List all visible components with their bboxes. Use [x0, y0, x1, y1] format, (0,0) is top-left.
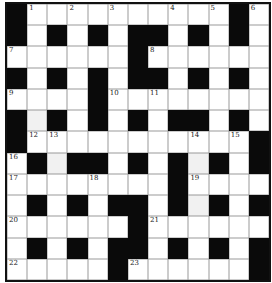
grid-cell[interactable] [249, 68, 269, 89]
grid-cell[interactable]: 14 [188, 131, 208, 152]
grid-cell[interactable] [108, 174, 128, 195]
grid-cell[interactable] [88, 4, 108, 25]
grid-cell[interactable]: 8 [148, 46, 168, 67]
grid-cell[interactable] [67, 89, 87, 110]
grid-cell[interactable]: 11 [148, 89, 168, 110]
grid-cell[interactable] [47, 216, 67, 237]
grid-cell[interactable] [27, 110, 47, 131]
grid-cell[interactable] [47, 238, 67, 259]
grid-cell[interactable] [67, 110, 87, 131]
grid-cell[interactable] [209, 259, 229, 280]
grid-cell[interactable] [88, 131, 108, 152]
grid-cell[interactable] [249, 89, 269, 110]
grid-cell[interactable] [148, 238, 168, 259]
grid-cell[interactable] [67, 25, 87, 46]
grid-cell[interactable] [108, 25, 128, 46]
grid-cell[interactable]: 21 [148, 216, 168, 237]
grid-cell[interactable] [27, 216, 47, 237]
grid-cell[interactable]: 6 [249, 4, 269, 25]
grid-cell[interactable] [27, 174, 47, 195]
grid-cell[interactable] [209, 46, 229, 67]
grid-cell[interactable]: 9 [7, 89, 27, 110]
grid-cell[interactable] [188, 216, 208, 237]
grid-cell[interactable] [168, 259, 188, 280]
grid-cell[interactable] [229, 89, 249, 110]
grid-cell[interactable] [168, 216, 188, 237]
grid-cell[interactable] [249, 216, 269, 237]
grid-cell[interactable] [67, 46, 87, 67]
grid-cell[interactable] [188, 195, 208, 216]
grid-cell[interactable] [168, 25, 188, 46]
grid-cell[interactable] [148, 4, 168, 25]
grid-cell[interactable] [27, 259, 47, 280]
grid-cell[interactable]: 22 [7, 259, 27, 280]
grid-cell[interactable] [229, 216, 249, 237]
grid-cell[interactable]: 20 [7, 216, 27, 237]
grid-cell[interactable] [229, 153, 249, 174]
grid-cell[interactable]: 16 [7, 153, 27, 174]
grid-cell[interactable] [188, 259, 208, 280]
grid-cell[interactable] [168, 68, 188, 89]
grid-cell[interactable] [209, 68, 229, 89]
grid-cell[interactable] [249, 110, 269, 131]
grid-cell[interactable] [7, 195, 27, 216]
grid-cell[interactable] [148, 110, 168, 131]
grid-cell[interactable] [229, 46, 249, 67]
grid-cell[interactable] [108, 153, 128, 174]
grid-cell[interactable] [229, 174, 249, 195]
grid-cell[interactable] [108, 131, 128, 152]
grid-cell[interactable] [249, 25, 269, 46]
grid-cell[interactable]: 4 [168, 4, 188, 25]
grid-cell[interactable]: 10 [108, 89, 128, 110]
grid-cell[interactable] [168, 89, 188, 110]
grid-cell[interactable] [47, 153, 67, 174]
grid-cell[interactable] [47, 259, 67, 280]
grid-cell[interactable] [88, 238, 108, 259]
grid-cell[interactable] [47, 195, 67, 216]
grid-cell[interactable] [148, 195, 168, 216]
grid-cell[interactable] [188, 4, 208, 25]
grid-cell[interactable] [209, 25, 229, 46]
grid-cell[interactable] [108, 68, 128, 89]
grid-cell[interactable] [88, 216, 108, 237]
grid-cell[interactable] [209, 89, 229, 110]
grid-cell[interactable]: 3 [108, 4, 128, 25]
grid-cell[interactable] [128, 174, 148, 195]
grid-cell[interactable] [168, 46, 188, 67]
grid-cell[interactable] [108, 110, 128, 131]
grid-cell[interactable]: 2 [67, 4, 87, 25]
grid-cell[interactable] [148, 259, 168, 280]
grid-cell[interactable]: 7 [7, 46, 27, 67]
grid-cell[interactable] [128, 89, 148, 110]
grid-cell[interactable] [128, 4, 148, 25]
grid-cell[interactable] [108, 46, 128, 67]
grid-cell[interactable] [209, 174, 229, 195]
grid-cell[interactable] [47, 174, 67, 195]
grid-cell[interactable] [148, 153, 168, 174]
grid-cell[interactable] [188, 238, 208, 259]
grid-cell[interactable] [27, 68, 47, 89]
grid-cell[interactable] [229, 238, 249, 259]
grid-cell[interactable]: 19 [188, 174, 208, 195]
grid-cell[interactable] [188, 89, 208, 110]
grid-cell[interactable] [47, 89, 67, 110]
grid-cell[interactable] [67, 259, 87, 280]
grid-cell[interactable] [67, 174, 87, 195]
grid-cell[interactable] [209, 131, 229, 152]
grid-cell[interactable] [27, 89, 47, 110]
grid-cell[interactable] [188, 46, 208, 67]
grid-cell[interactable] [209, 216, 229, 237]
grid-cell[interactable] [67, 68, 87, 89]
grid-cell[interactable] [27, 46, 47, 67]
grid-cell[interactable]: 23 [128, 259, 148, 280]
grid-cell[interactable]: 12 [27, 131, 47, 152]
grid-cell[interactable] [88, 46, 108, 67]
grid-cell[interactable] [7, 238, 27, 259]
grid-cell[interactable] [88, 195, 108, 216]
grid-cell[interactable]: 1 [27, 4, 47, 25]
grid-cell[interactable] [209, 110, 229, 131]
grid-cell[interactable] [88, 259, 108, 280]
grid-cell[interactable]: 13 [47, 131, 67, 152]
grid-cell[interactable] [249, 46, 269, 67]
grid-cell[interactable] [47, 4, 67, 25]
